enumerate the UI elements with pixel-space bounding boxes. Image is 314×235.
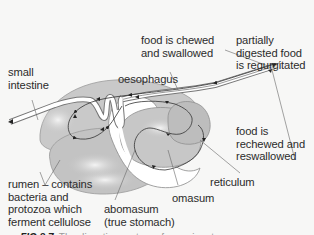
figure-caption-text: The digestive system of a ruminant: [53, 232, 213, 235]
figure-number: FIG 8.7: [20, 232, 53, 235]
label-food-rechewed: food is rechewed and reswallowed: [236, 125, 305, 163]
label-food-chewed: food is chewed and swallowed: [141, 34, 214, 59]
ruminant-digestive-diagram: food is chewed and swallowed partially d…: [0, 0, 314, 235]
figure-caption: FIG 8.7 The digestive system of a rumina…: [9, 221, 214, 235]
label-omasum: omasum: [172, 192, 214, 205]
label-small-intestine: small intestine: [8, 66, 49, 91]
label-reticulum: reticulum: [210, 176, 254, 189]
label-partially-digested: partially digested food is regurgitated: [236, 34, 305, 72]
label-oesophagus: oesophagus: [118, 73, 178, 86]
